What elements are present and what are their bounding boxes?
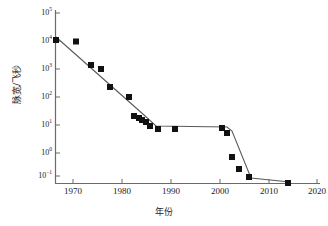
x-tick-label: 1980 xyxy=(102,186,142,196)
y-tick-label: 100 xyxy=(24,148,52,157)
data-point xyxy=(246,174,252,180)
y-axis-title: 脉宽/飞秒 xyxy=(10,37,23,133)
data-point xyxy=(126,94,132,100)
y-tick-label: 102 xyxy=(24,92,52,101)
data-points xyxy=(53,37,291,186)
x-axis-title: 年份 xyxy=(0,205,328,218)
data-point xyxy=(147,123,153,129)
data-point xyxy=(107,84,113,90)
x-tick-label: 2010 xyxy=(249,186,289,196)
trend-line xyxy=(56,37,290,182)
y-tick-label: 101 xyxy=(24,120,52,129)
x-tick-label: 1970 xyxy=(53,186,93,196)
data-point xyxy=(73,39,79,45)
x-tick-label: 2000 xyxy=(200,186,240,196)
data-point xyxy=(98,66,104,72)
data-point xyxy=(155,126,161,132)
data-point xyxy=(229,154,235,160)
y-tick-label: 105 xyxy=(24,8,52,17)
y-tick-label: 10−1 xyxy=(20,171,52,180)
chart-figure: 105 104 103 102 101 100 10−1 1970 1980 1… xyxy=(0,0,328,226)
x-tick-label: 2020 xyxy=(297,186,328,196)
data-point xyxy=(88,62,94,68)
data-point xyxy=(224,130,230,136)
y-tick-label: 103 xyxy=(24,64,52,73)
data-point xyxy=(53,37,59,43)
y-tick-label: 104 xyxy=(24,36,52,45)
data-point xyxy=(172,126,178,132)
data-point xyxy=(236,166,242,172)
x-tick-label: 1990 xyxy=(151,186,191,196)
